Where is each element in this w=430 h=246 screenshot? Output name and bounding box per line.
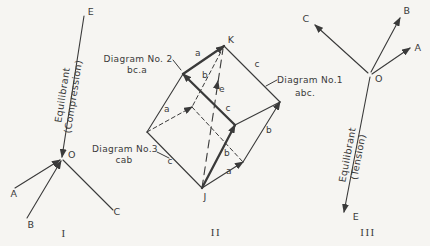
force-parallelepiped-numeral: II xyxy=(211,226,221,238)
edge-c-j-l xyxy=(147,132,202,188)
edge-label-e: e xyxy=(219,84,225,94)
caption-diagram-no1-order: abc. xyxy=(295,88,315,98)
pointer-diagram-no2 xyxy=(173,60,181,70)
force-a-line xyxy=(372,48,410,74)
point-label-o: O xyxy=(375,73,383,84)
force-c-line xyxy=(63,160,113,210)
force-parallelepiped: KJacbeaccbbaDiagram No. 2bc.aDiagram No.… xyxy=(92,34,343,238)
caption-diagram-no2: Diagram No. 2 xyxy=(104,54,173,64)
caption-diagram-no2-order: bc.a xyxy=(127,65,147,75)
point-label-c: C xyxy=(303,13,310,24)
space-diagram-compression: EOABCEquilibrant(Compression)I xyxy=(11,6,121,239)
edge-label-b-lower: b xyxy=(224,148,230,158)
equilibrant-compression-caption: Equilibrant(Compression) xyxy=(51,57,84,134)
edge-label-c-mid: c xyxy=(225,103,230,113)
edge-label-a-bottom: a xyxy=(226,166,232,176)
figure-canvas: EOABCEquilibrant(Compression)IKJacbeaccb… xyxy=(0,0,430,246)
space-diagram-compression-numeral: I xyxy=(61,227,66,239)
diagrams-root: EOABCEquilibrant(Compression)IKJacbeaccb… xyxy=(11,5,422,239)
point-label-c: C xyxy=(114,206,121,217)
force-b-line xyxy=(371,18,400,72)
point-label-b: B xyxy=(28,219,35,230)
edge-label-b-upper: b xyxy=(202,70,208,80)
edge-label-c-lower: c xyxy=(167,156,172,166)
point-label-e: E xyxy=(353,211,359,222)
point-label-a: A xyxy=(415,42,422,53)
edge-label-a-mid: a xyxy=(164,104,170,114)
point-label-e: E xyxy=(88,6,94,17)
edge-label-c-top: c xyxy=(254,59,259,69)
point-label-b: B xyxy=(404,5,411,16)
space-diagram-tension-numeral: III xyxy=(360,226,376,238)
caption-diagram-no3: Diagram No.3 xyxy=(92,144,158,154)
caption-diagram-no3-order: cab xyxy=(115,155,132,165)
equilibrant-tension-caption: Equilibrant(Tension) xyxy=(336,126,368,185)
figure: EOABCEquilibrant(Compression)IKJacbeaccb… xyxy=(0,0,430,246)
edge-c-fc-ul xyxy=(183,74,235,125)
vertex-label-j: J xyxy=(202,191,206,202)
edge-label-a-top: a xyxy=(195,48,201,58)
vertex-label-k: K xyxy=(228,34,235,45)
point-label-a: A xyxy=(11,188,18,199)
edge-c-k-r xyxy=(224,46,280,102)
caption-diagram-no1: Diagram No.1 xyxy=(277,75,343,85)
edge-c-in-lr-hidden xyxy=(192,107,243,162)
space-diagram-tension: CBAOEEquilibrant(Tension)III xyxy=(303,5,422,238)
point-label-o: O xyxy=(68,149,76,160)
edge-label-b-right: b xyxy=(266,125,272,135)
pointer-diagram-no1 xyxy=(266,80,277,86)
edge-b-ul-l xyxy=(147,74,183,132)
force-c-line xyxy=(315,25,368,73)
